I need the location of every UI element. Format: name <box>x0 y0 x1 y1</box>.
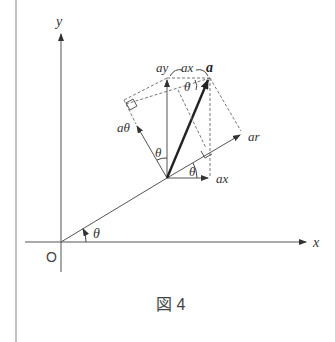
a-r-label: ar <box>248 129 261 144</box>
angle-label-r: θ <box>189 164 196 179</box>
polar-acceleration-diagram: x y O θ ar aθ ay ax a θ θ ax θ 図 4 <box>0 0 335 342</box>
angle-arc-origin <box>83 229 86 242</box>
a-r-vector <box>167 135 240 178</box>
angle-arc-top <box>195 80 197 90</box>
a-x-label-top: ax <box>181 60 194 75</box>
a-theta-vector <box>137 126 167 178</box>
figure-caption: 図 4 <box>156 296 185 313</box>
angle-label-top: θ <box>184 79 191 94</box>
angle-label-theta: θ <box>155 145 162 160</box>
a-theta-label: aθ <box>117 120 131 135</box>
a-vector <box>167 80 208 178</box>
a-label: a <box>206 60 213 75</box>
a-x-label-bottom: ax <box>216 171 229 186</box>
dashed-projections <box>124 78 241 178</box>
radial-line <box>61 178 167 242</box>
x-axis-label: x <box>312 235 320 250</box>
origin-label: O <box>46 249 57 265</box>
y-axis-label: y <box>54 14 63 29</box>
a-y-label: ay <box>156 60 169 75</box>
right-angle-marker-theta <box>126 99 137 110</box>
angle-label-origin: θ <box>93 226 100 241</box>
